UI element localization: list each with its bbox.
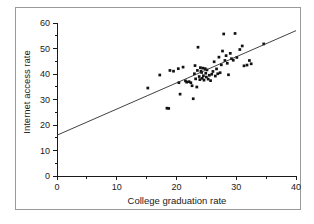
- data-point: [219, 71, 222, 74]
- data-point: [214, 75, 217, 78]
- data-point: [238, 48, 241, 51]
- data-point: [197, 46, 200, 49]
- data-point: [215, 68, 218, 71]
- x-tick-label: 40: [291, 182, 301, 192]
- y-tick-label: 0: [45, 171, 50, 181]
- data-point: [227, 73, 230, 76]
- data-point: [167, 107, 170, 110]
- data-point: [195, 86, 198, 89]
- data-point: [213, 60, 216, 63]
- data-point: [250, 62, 253, 65]
- data-point: [177, 67, 180, 70]
- data-point: [198, 78, 201, 81]
- data-point: [229, 52, 232, 55]
- data-point: [226, 62, 229, 65]
- data-point: [194, 77, 197, 80]
- data-point: [201, 67, 204, 70]
- data-point: [216, 72, 219, 75]
- x-tick-label: 10: [112, 182, 122, 192]
- data-point: [225, 54, 228, 57]
- data-point: [169, 69, 172, 72]
- data-point: [146, 87, 149, 90]
- x-axis-title: College graduation rate: [128, 195, 227, 206]
- x-tick-label: 30: [231, 182, 241, 192]
- x-tick-label: 20: [171, 182, 181, 192]
- x-tick-label: 0: [54, 182, 59, 192]
- x-axis: 010203040: [54, 176, 301, 192]
- figure-border: [16, 8, 301, 210]
- data-point: [179, 93, 182, 96]
- y-tick-label: 40: [40, 69, 50, 79]
- data-point: [212, 70, 215, 73]
- data-point: [182, 66, 185, 69]
- y-axis-title: Internet access rate: [21, 50, 32, 133]
- data-point: [191, 84, 194, 87]
- scatter-plot-figure: 0102030405060 010203040 College graduati…: [0, 0, 314, 224]
- data-point: [232, 59, 235, 62]
- data-point: [192, 97, 195, 100]
- y-tick-label: 20: [40, 120, 50, 130]
- data-point: [189, 81, 192, 84]
- data-point: [203, 79, 206, 82]
- data-point: [185, 81, 188, 84]
- data-point: [208, 74, 211, 77]
- y-tick-label: 10: [40, 146, 50, 156]
- data-point: [209, 79, 212, 82]
- data-point: [243, 64, 246, 67]
- data-point: [221, 50, 224, 53]
- data-point: [194, 64, 197, 67]
- y-axis: 0102030405060: [40, 18, 57, 181]
- data-point: [199, 66, 202, 69]
- regression-line: [57, 31, 296, 136]
- y-tick-label: 50: [40, 44, 50, 54]
- data-point: [198, 75, 201, 78]
- data-point: [218, 56, 221, 59]
- data-point: [246, 64, 249, 67]
- data-point: [172, 70, 175, 73]
- data-points-layer: [146, 32, 265, 110]
- trendline-layer: [57, 31, 296, 136]
- y-tick-label: 30: [40, 95, 50, 105]
- data-point: [158, 74, 161, 77]
- data-point: [248, 59, 251, 62]
- data-point: [202, 74, 205, 77]
- data-point: [234, 32, 237, 35]
- data-point: [204, 72, 207, 75]
- data-point: [241, 45, 244, 48]
- data-point: [207, 78, 210, 81]
- data-point: [210, 73, 213, 76]
- data-point: [222, 33, 225, 36]
- data-point: [196, 69, 199, 72]
- y-tick-label: 60: [40, 18, 50, 28]
- chart-canvas: 0102030405060 010203040 College graduati…: [0, 0, 314, 224]
